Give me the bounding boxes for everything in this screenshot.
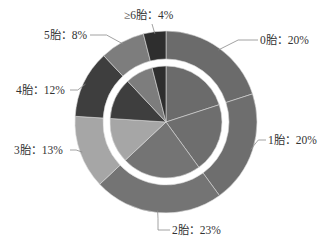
pie-chart: 0胎：20% 1胎：20% 2胎：23% 3胎：13% 4胎：12% 5胎：8%… (0, 0, 327, 248)
leader-line-0 (218, 40, 258, 50)
label-5-births: 5胎：8% (44, 28, 88, 41)
inner-pie (110, 66, 222, 178)
leader-line-2 (158, 211, 170, 230)
label-0-births: 0胎：20% (260, 33, 309, 46)
label-2-births: 2胎：23% (172, 223, 221, 236)
label-1-birth: 1胎：20% (268, 133, 317, 146)
label-6plus-births: ≥6胎：4% (124, 8, 174, 21)
label-4-births: 4胎：12% (16, 83, 65, 96)
label-3-births: 3胎：13% (14, 143, 63, 156)
leader-line-5 (90, 35, 123, 44)
